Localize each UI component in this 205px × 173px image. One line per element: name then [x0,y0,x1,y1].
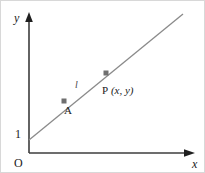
y-axis-tick-label-1: 1 [15,128,21,140]
x-axis-arrowhead [184,149,195,157]
coordinate-plane-figure: y x O 1 l A P (x, y) [0,0,205,173]
point-a-marker [62,99,67,104]
origin-label: O [14,157,23,169]
point-p-marker [104,71,109,76]
x-axis-label: x [192,158,197,170]
line-label-l: l [75,80,78,90]
line-l [29,14,183,140]
point-p-label: P (x, y) [102,85,133,96]
point-a-label: A [64,105,72,116]
point-p-coords: (x, y) [111,84,134,96]
y-axis-label: y [14,12,19,24]
y-axis-arrowhead [25,12,33,22]
